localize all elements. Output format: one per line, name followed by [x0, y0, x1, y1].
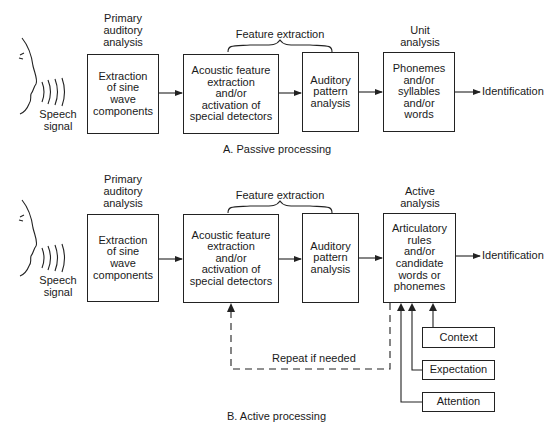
caption-passive: A. Passive processing	[223, 143, 331, 155]
box-sine-wave-extraction: Extraction of sine wave components	[87, 214, 159, 302]
box-acoustic-feature-extraction: Acoustic feature extraction and/or activ…	[183, 54, 279, 134]
stage-label-primary: Primary auditory analysis	[84, 12, 162, 48]
box-sine-wave-extraction: Extraction of sine wave components	[87, 54, 159, 134]
identification-output: Identification	[482, 85, 544, 97]
input-box-expectation: Expectation	[422, 360, 495, 380]
identification-output: Identification	[482, 249, 544, 261]
feature-brace	[228, 201, 332, 213]
stage-label-unit: Unit analysis	[385, 24, 455, 48]
input-box-context: Context	[422, 327, 495, 348]
head-profile-icon	[19, 38, 37, 114]
box-articulatory-rules: Articulatory rules and/or candidate word…	[383, 213, 456, 303]
feedback-label: Repeat if needed	[272, 352, 356, 364]
sound-waves-icon	[42, 78, 65, 106]
caption-active: B. Active processing	[227, 410, 326, 422]
speech-signal-label: Speech signal	[36, 108, 80, 132]
speech-signal-label: Speech signal	[36, 274, 80, 298]
box-phonemes-syllables-words: Phonemes and/or syllables and/or words	[383, 52, 455, 132]
box-acoustic-feature-extraction: Acoustic feature extraction and/or activ…	[183, 214, 279, 303]
feature-brace	[228, 40, 332, 52]
box-auditory-pattern-analysis: Auditory pattern analysis	[302, 213, 359, 303]
input-box-attention: Attention	[422, 392, 495, 412]
stage-label-active: Active analysis	[385, 185, 455, 209]
sound-waves-icon	[42, 244, 65, 272]
box-auditory-pattern-analysis: Auditory pattern analysis	[302, 52, 359, 132]
stage-label-primary: Primary auditory analysis	[84, 173, 162, 209]
stage-label-feature: Feature extraction	[225, 189, 335, 201]
head-profile-icon	[19, 200, 37, 276]
stage-label-feature: Feature extraction	[225, 28, 335, 40]
